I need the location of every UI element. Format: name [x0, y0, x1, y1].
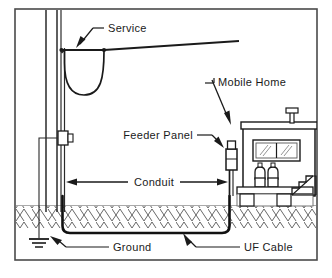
mobile-home-service-diagram: Conduit Service Mobile Home Feeder Panel — [0, 0, 332, 278]
mobile-home-window — [253, 140, 300, 161]
mobile-home-label: Mobile Home — [218, 76, 286, 88]
conduit-label: Conduit — [134, 176, 174, 188]
skirting-and-piers — [237, 187, 313, 206]
feeder-panel-enclosure — [226, 141, 237, 170]
uf-cable-label: UF Cable — [244, 241, 293, 253]
diagram-canvas: Conduit Service Mobile Home Feeder Panel — [0, 0, 332, 278]
feeder-panel-label: Feeder Panel — [123, 129, 193, 141]
ground-label: Ground — [113, 241, 152, 253]
service-label: Service — [108, 22, 147, 34]
